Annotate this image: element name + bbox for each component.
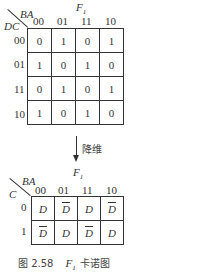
col-header: 10 xyxy=(106,185,117,196)
kmap-cell: D xyxy=(32,221,55,245)
col-header: 00 xyxy=(33,16,44,27)
row-header: 00 xyxy=(14,35,25,46)
bottom-kmap-grid: D D D D D D D D xyxy=(31,196,124,245)
kmap-cell: 1 xyxy=(76,53,100,77)
kmap-cell: 0 xyxy=(28,29,52,53)
col-header: 11 xyxy=(81,16,92,27)
row-header: 0 xyxy=(21,202,27,213)
caption-text: 卡诺图 xyxy=(80,258,110,269)
col-variable-label: BA xyxy=(20,9,33,20)
kmap-cell: 1 xyxy=(100,77,124,101)
kmap-cell: 0 xyxy=(76,29,100,53)
kmap-cell: 1 xyxy=(76,101,100,125)
kmap-cell: D xyxy=(32,197,55,221)
figure-caption: 图 2.58 F1 卡诺图 xyxy=(18,253,110,272)
col-variable-label: BA xyxy=(22,176,35,187)
kmap-cell: 0 xyxy=(76,77,100,101)
kmap-cell: 1 xyxy=(28,101,52,125)
col-header: 00 xyxy=(35,185,46,196)
col-header: 01 xyxy=(57,16,68,27)
row-header: 01 xyxy=(14,59,25,70)
bottom-map-title: F1 xyxy=(73,167,83,181)
col-header: 11 xyxy=(82,185,93,196)
row-header: 11 xyxy=(14,84,25,95)
top-kmap-grid: 0 1 0 1 1 0 1 0 0 1 0 1 1 0 1 0 xyxy=(27,28,124,125)
kmap-cell: D xyxy=(78,197,101,221)
kmap-cell: D xyxy=(101,197,124,221)
kmap-cell: 0 xyxy=(28,77,52,101)
kmap-cell: 1 xyxy=(52,29,76,53)
row-variable-label: C xyxy=(9,189,16,200)
kmap-cell: 0 xyxy=(100,101,124,125)
kmap-cell: 0 xyxy=(52,53,76,77)
kmap-cell: D xyxy=(55,197,78,221)
kmap-cell: 0 xyxy=(52,101,76,125)
kmap-cell: 1 xyxy=(52,77,76,101)
arrow-shaft xyxy=(76,136,77,156)
arrow-down-icon xyxy=(73,155,79,162)
row-header: 1 xyxy=(21,226,27,237)
kmap-cell: 0 xyxy=(100,53,124,77)
figure-number: 图 2.58 xyxy=(18,258,53,269)
row-variable-label: DC xyxy=(4,21,19,32)
arrow-label: 降维 xyxy=(82,141,102,156)
kmap-cell: D xyxy=(101,221,124,245)
kmap-cell: 1 xyxy=(28,53,52,77)
kmap-cell: 1 xyxy=(100,29,124,53)
kmap-cell: D xyxy=(78,221,101,245)
row-header: 10 xyxy=(14,109,25,120)
col-header: 01 xyxy=(58,185,69,196)
col-header: 10 xyxy=(105,16,116,27)
kmap-cell: D xyxy=(55,221,78,245)
caption-variable: F1 xyxy=(65,257,75,269)
